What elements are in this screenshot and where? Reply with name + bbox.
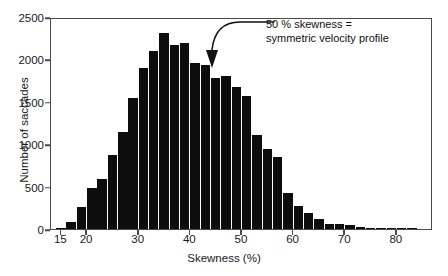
histogram-bar xyxy=(180,43,189,229)
histogram-bar xyxy=(221,76,230,229)
histogram-bar xyxy=(159,33,168,229)
x-tick-mark xyxy=(85,230,87,235)
x-tick-mark xyxy=(240,230,242,235)
x-tick-mark xyxy=(137,230,139,235)
x-tick-mark xyxy=(189,230,191,235)
annotation-line-1: 50 % skewness = xyxy=(266,17,389,31)
histogram-bar xyxy=(252,135,261,229)
plot-area xyxy=(50,18,432,230)
histogram-bar xyxy=(56,228,65,229)
x-tick-mark xyxy=(395,230,397,235)
histogram-bar xyxy=(211,78,220,229)
histogram-bar xyxy=(387,228,396,229)
histogram-bar xyxy=(335,224,344,229)
y-tick-label: 1000 xyxy=(0,139,44,151)
x-tick-mark xyxy=(292,230,294,235)
histogram-bar xyxy=(356,227,365,229)
histogram-bar xyxy=(118,132,127,229)
y-tick-label: 1500 xyxy=(0,97,44,109)
histogram-bar xyxy=(97,179,106,229)
annotation-text: 50 % skewness = symmetric velocity profi… xyxy=(266,17,389,45)
histogram-bar xyxy=(190,63,199,229)
x-tick-mark xyxy=(60,230,62,235)
histogram-bar xyxy=(128,98,137,229)
histogram-bar xyxy=(242,96,251,229)
histogram-bar xyxy=(407,228,416,229)
y-tick-label: 2500 xyxy=(0,12,44,24)
y-tick-label: 0 xyxy=(0,224,44,236)
histogram-bar xyxy=(345,225,354,229)
y-tick-label: 500 xyxy=(0,182,44,194)
histogram-bar xyxy=(139,68,148,229)
bars-layer xyxy=(51,19,431,229)
histogram-bar xyxy=(376,228,385,229)
histogram-bar xyxy=(201,65,210,229)
histogram-bar xyxy=(273,157,282,229)
y-tick-label: 2000 xyxy=(0,54,44,66)
x-axis-label: Skewness (%) xyxy=(0,252,448,264)
histogram-bar xyxy=(314,219,323,229)
histogram-bar xyxy=(66,222,75,229)
x-tick-mark xyxy=(343,230,345,235)
histogram-bar xyxy=(149,51,158,229)
histogram-bar xyxy=(325,224,334,230)
histogram-bar xyxy=(283,193,292,229)
histogram-bar xyxy=(170,45,179,229)
histogram-bar xyxy=(304,213,313,229)
histogram-bar xyxy=(108,155,117,229)
annotation-line-2: symmetric velocity profile xyxy=(266,31,389,45)
histogram-bar xyxy=(294,206,303,229)
histogram-bar xyxy=(397,228,406,229)
histogram-figure: Number of saccades 05001000150020002500 … xyxy=(0,0,448,276)
histogram-bar xyxy=(77,207,86,229)
histogram-bar xyxy=(263,149,272,229)
histogram-bar xyxy=(366,228,375,229)
histogram-bar xyxy=(232,87,241,229)
histogram-bar xyxy=(87,188,96,229)
